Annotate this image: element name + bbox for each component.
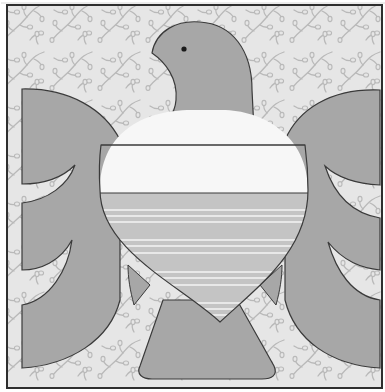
left-wing (22, 89, 120, 368)
quilt-block (0, 0, 385, 392)
eye-icon (181, 46, 186, 51)
bird-illustration (0, 0, 385, 392)
